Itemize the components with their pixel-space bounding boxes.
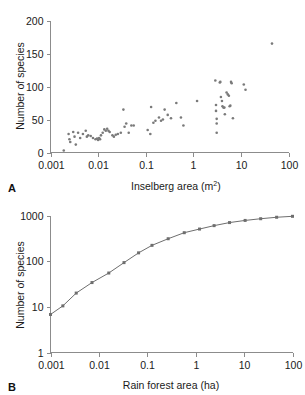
panel-a-y-tick-label: 50 bbox=[32, 114, 44, 126]
panel-a-x-axis-title: Inselberg area (m2) bbox=[131, 180, 221, 192]
panel-b-x-tick-label: 0.001 bbox=[38, 359, 64, 371]
panel-b-curve-points bbox=[49, 215, 294, 316]
panel-b-curve-marker bbox=[275, 216, 278, 219]
panel-b-y-axis-title: Number of species bbox=[14, 241, 26, 329]
panel-a-data-point bbox=[170, 117, 173, 120]
panel-a-data-point bbox=[150, 106, 153, 109]
panel-a-data-point bbox=[215, 110, 218, 113]
panel-a-x-tick-label: 10 bbox=[236, 159, 248, 171]
panel-a-x-tick-label: 0.001 bbox=[38, 159, 64, 171]
panel-a-y-tick-label: 200 bbox=[26, 15, 44, 27]
panel-a-data-point bbox=[75, 143, 78, 146]
panel-b-letter: B bbox=[8, 381, 16, 393]
panel-a-data-point bbox=[149, 133, 152, 136]
panel-b-curve-marker bbox=[183, 231, 186, 234]
panel-b-curve-marker bbox=[198, 228, 201, 231]
panel-a-data-point bbox=[228, 94, 231, 97]
panel-a-scatter-chart: 050100150200 0.0010.010.1110100 Number o… bbox=[0, 0, 305, 198]
panel-a-x-tick-label: 0.01 bbox=[88, 159, 109, 171]
panel-b-x-tick-label: 0.1 bbox=[140, 359, 155, 371]
panel-a-letter: A bbox=[8, 182, 16, 194]
panel-a-data-points bbox=[62, 42, 273, 152]
panel-b-y-tick-label: 1 bbox=[38, 347, 44, 359]
panel-a-svg: 050100150200 0.0010.010.1110100 Number o… bbox=[0, 0, 305, 198]
panel-b-curve-marker bbox=[49, 313, 52, 316]
panel-b-curve-marker bbox=[123, 261, 126, 264]
panel-b-curve-marker bbox=[137, 251, 140, 254]
panel-a-data-point bbox=[224, 113, 227, 116]
panel-a-data-point bbox=[215, 122, 218, 125]
panel-a-data-point bbox=[100, 134, 103, 137]
panel-b-curve-path bbox=[51, 216, 293, 314]
panel-a-x-axis-title-base: Inselberg area (m bbox=[131, 180, 214, 192]
panel-a-data-point bbox=[87, 134, 90, 137]
panel-b-curve-marker bbox=[107, 272, 110, 275]
panel-a-y-tick-label: 150 bbox=[26, 48, 44, 60]
panel-a-data-point bbox=[180, 116, 183, 119]
panel-a-data-point bbox=[230, 82, 233, 85]
panel-a-y-axis-title: Number of species bbox=[14, 42, 26, 130]
panel-a-data-point bbox=[77, 131, 80, 134]
panel-a-data-point bbox=[92, 137, 95, 140]
panel-a-x-axis-title-tail: ) bbox=[217, 180, 221, 192]
panel-a-data-point bbox=[158, 116, 161, 119]
panel-a-data-point bbox=[117, 133, 120, 136]
panel-b-x-ticks: 0.0010.010.1110100 bbox=[38, 353, 302, 371]
panel-a-data-point bbox=[125, 122, 128, 125]
panel-a-data-point bbox=[242, 83, 245, 86]
panel-a-data-point bbox=[84, 129, 87, 132]
panel-a-data-point bbox=[120, 131, 123, 134]
panel-b-y-tick-label: 1000 bbox=[20, 210, 44, 222]
panel-b-y-tick-label: 10 bbox=[32, 301, 44, 313]
panel-a-data-point bbox=[130, 124, 133, 127]
panel-a-data-point bbox=[229, 104, 232, 107]
panel-a-x-tick-label: 0.1 bbox=[139, 159, 154, 171]
panel-b-curve bbox=[51, 216, 293, 314]
panel-b-curve-marker bbox=[150, 244, 153, 247]
panel-a-y-ticks: 050100150200 bbox=[26, 15, 51, 159]
panel-b-curve-marker bbox=[90, 281, 93, 284]
panel-b-x-tick-label: 100 bbox=[285, 359, 303, 371]
panel-b-curve-marker bbox=[213, 224, 216, 227]
panel-a-data-point bbox=[215, 118, 218, 121]
panel-a-data-point bbox=[196, 100, 199, 103]
panel-a-data-point bbox=[182, 124, 185, 127]
panel-b-x-tick-label: 0.01 bbox=[89, 359, 110, 371]
panel-a-x-tick-label: 100 bbox=[281, 159, 299, 171]
panel-a-data-point bbox=[108, 131, 111, 134]
panel-b-svg: 1101001000 0.0010.010.1110100 Number of … bbox=[0, 197, 305, 395]
panel-a-data-point bbox=[215, 131, 218, 134]
panel-a-data-point bbox=[220, 96, 223, 99]
panel-b-curve-marker bbox=[167, 237, 170, 240]
panel-b-curve-marker bbox=[291, 215, 294, 218]
panel-a-data-point bbox=[163, 108, 166, 111]
panel-b-y-tick-label: 100 bbox=[26, 255, 44, 267]
panel-a-data-point bbox=[214, 79, 217, 82]
panel-b-line-chart: 1101001000 0.0010.010.1110100 Number of … bbox=[0, 197, 305, 395]
panel-a-data-point bbox=[122, 108, 125, 111]
panel-a-data-point bbox=[232, 117, 235, 120]
panel-a-x-ticks: 0.0010.010.1110100 bbox=[38, 153, 298, 171]
panel-a-data-point bbox=[146, 129, 149, 132]
panel-b-x-axis-title: Rain forest area (ha) bbox=[123, 379, 219, 391]
panel-a-data-point bbox=[89, 135, 92, 138]
panel-a-y-tick-label: 0 bbox=[38, 147, 44, 159]
panel-b-curve-marker bbox=[244, 219, 247, 222]
panel-a-data-point bbox=[79, 137, 82, 140]
panel-a-data-point bbox=[271, 42, 274, 45]
panel-a-data-point bbox=[127, 131, 130, 134]
panel-a-data-point bbox=[101, 131, 104, 134]
panel-a-data-point bbox=[67, 133, 70, 136]
panel-b-curve-marker bbox=[228, 221, 231, 224]
panel-a-data-point bbox=[132, 124, 135, 127]
panel-a-axes bbox=[51, 21, 289, 153]
panel-b-curve-marker bbox=[75, 292, 78, 295]
panel-a-data-point bbox=[113, 135, 116, 138]
panel-a-data-point bbox=[152, 122, 155, 125]
panel-a-data-point bbox=[154, 120, 157, 123]
panel-a-data-point bbox=[175, 102, 178, 105]
panel-a-data-point bbox=[215, 104, 218, 107]
panel-a-data-point bbox=[221, 100, 224, 103]
panel-a-data-point bbox=[166, 114, 169, 117]
panel-a-data-point bbox=[162, 118, 165, 121]
